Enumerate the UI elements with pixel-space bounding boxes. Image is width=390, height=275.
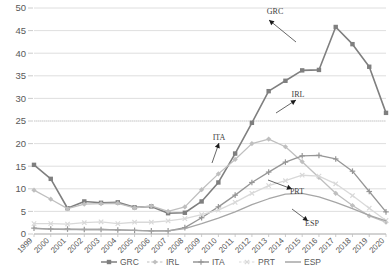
- x-axis-tick-label: 2005: [116, 236, 135, 255]
- annotation-ita: ITA: [212, 133, 226, 163]
- x-axis-tick-label: 2001: [49, 236, 68, 255]
- data-point-marker: [31, 188, 36, 193]
- data-point-marker: [367, 65, 371, 69]
- x-axis-tick-label: 2019: [351, 236, 370, 255]
- data-point-marker: [299, 153, 305, 159]
- x-axis-tick-label: 2009: [183, 236, 202, 255]
- annotation-grc: GRC: [267, 7, 296, 42]
- data-point-marker: [283, 159, 289, 165]
- annotation-esp: ESP: [292, 209, 319, 228]
- x-axis-tick-label: 2020: [367, 236, 386, 255]
- data-point-marker: [350, 193, 354, 197]
- data-point-marker: [367, 206, 371, 210]
- annotation-label: ITA: [213, 133, 226, 142]
- data-point-marker: [152, 259, 157, 264]
- x-axis-tick-label: 2000: [32, 236, 51, 255]
- series-line: [34, 27, 386, 213]
- data-point-marker: [350, 42, 354, 46]
- y-axis-tick-label: 50: [15, 2, 26, 13]
- legend-item-esp[interactable]: ESP: [285, 257, 321, 267]
- y-axis-tick-label: 5: [21, 206, 26, 217]
- data-point-marker: [107, 260, 111, 264]
- legend-label: GRC: [120, 257, 139, 267]
- legend-label: PRT: [258, 257, 275, 267]
- data-point-marker: [266, 89, 270, 93]
- series-line: [34, 139, 386, 222]
- y-axis-tick-label: 35: [15, 70, 26, 81]
- data-point-marker: [199, 199, 203, 203]
- series-annotations: GRCIRLITAPRTESP: [212, 7, 319, 228]
- x-axis-tick-label: 2014: [267, 236, 286, 255]
- data-point-marker: [300, 68, 304, 72]
- data-point-marker: [316, 153, 322, 159]
- x-axis-tick-label: 2018: [334, 236, 353, 255]
- legend-label: ITA: [212, 257, 225, 267]
- y-axis-tick-label: 15: [15, 161, 26, 172]
- annotation-label: PRT: [290, 187, 304, 196]
- legend-label: ESP: [304, 257, 321, 267]
- data-series: [31, 25, 389, 234]
- x-axis-tick-label: 2013: [250, 236, 269, 255]
- data-point-marker: [384, 111, 388, 115]
- x-axis-tick-label: 2016: [300, 236, 319, 255]
- x-axis-tick-label: 2007: [150, 236, 169, 255]
- chart-legend: GRCIRLITAPRTESP: [101, 257, 321, 267]
- y-axis-tick-label: 45: [15, 25, 26, 36]
- annotation-arrow-head: [269, 20, 275, 25]
- x-axis-tick-label: 2003: [83, 236, 102, 255]
- x-axis-tick-label: 2004: [99, 236, 118, 255]
- x-axis-labels: 1999200020012002200320042005200620072008…: [15, 234, 386, 255]
- y-axis-tick-label: 40: [15, 48, 26, 59]
- annotation-label: IRL: [292, 90, 305, 99]
- x-axis-tick-label: 2010: [200, 236, 219, 255]
- x-axis-tick-label: 2017: [317, 236, 336, 255]
- x-axis-tick-label: 2015: [284, 236, 303, 255]
- data-point-marker: [216, 180, 220, 184]
- y-axis-tick-label: 25: [15, 115, 26, 126]
- legend-item-ita[interactable]: ITA: [193, 257, 225, 267]
- annotation-irl: IRL: [276, 90, 305, 113]
- y-axis-tick-label: 10: [15, 183, 26, 194]
- data-point-marker: [250, 121, 254, 125]
- data-point-marker: [266, 136, 271, 141]
- y-axis-tick-label: 30: [15, 93, 26, 104]
- annotation-label: ESP: [305, 219, 319, 228]
- legend-item-grc[interactable]: GRC: [101, 257, 139, 267]
- data-point-marker: [198, 259, 204, 265]
- data-point-marker: [49, 177, 53, 181]
- x-axis-tick-label: 2002: [66, 236, 85, 255]
- y-axis-labels: 05101520253035404550: [15, 2, 33, 239]
- x-axis-tick-label: 2006: [133, 236, 152, 255]
- legend-label: IRL: [166, 257, 180, 267]
- line-chart-plot: 05101520253035404550 1999200020012002200…: [0, 0, 390, 275]
- data-point-marker: [183, 211, 187, 215]
- data-point-marker: [317, 68, 321, 72]
- y-axis-tick-label: 20: [15, 138, 26, 149]
- data-point-marker: [283, 79, 287, 83]
- legend-item-prt[interactable]: PRT: [239, 257, 275, 267]
- annotation-arrow-head: [290, 100, 296, 105]
- x-axis-tick-label: 2008: [166, 236, 185, 255]
- data-point-marker: [334, 25, 338, 29]
- x-axis-tick-label: 1999: [15, 236, 34, 255]
- data-point-marker: [32, 163, 36, 167]
- x-axis-tick-label: 2012: [233, 236, 252, 255]
- x-axis-tick-label: 2011: [217, 236, 236, 255]
- data-point-marker: [233, 151, 237, 155]
- legend-item-irl[interactable]: IRL: [147, 257, 180, 267]
- data-point-marker: [48, 197, 53, 202]
- grid-lines: [34, 8, 386, 234]
- chart-container: 05101520253035404550 1999200020012002200…: [0, 0, 390, 275]
- annotation-label: GRC: [267, 7, 283, 16]
